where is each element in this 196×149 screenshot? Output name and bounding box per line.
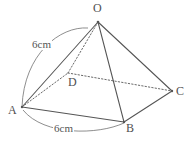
vertex-dot-B xyxy=(123,121,125,123)
pyramid-figure: O A B C D 6cm 6cm xyxy=(0,0,196,149)
vertex-label-O: O xyxy=(93,2,102,14)
edge-O-C xyxy=(98,22,172,91)
edge-O-B xyxy=(98,22,124,122)
hidden-edges-group xyxy=(22,22,172,107)
vertex-dot-C xyxy=(171,90,173,92)
edge-B-C xyxy=(124,91,172,122)
edge-D-C xyxy=(68,73,172,91)
vertex-label-A: A xyxy=(8,104,17,116)
vertex-dot-A xyxy=(21,106,23,108)
edge-A-D xyxy=(22,73,68,107)
dimension-label-oa: 6cm xyxy=(31,39,52,50)
vertex-label-B: B xyxy=(126,122,134,134)
vertex-label-D: D xyxy=(68,76,77,88)
edge-A-B xyxy=(22,107,124,122)
vertex-label-C: C xyxy=(176,85,184,97)
visible-edges-group xyxy=(22,22,172,122)
vertex-dots-group xyxy=(21,21,173,124)
dimension-label-ab: 6cm xyxy=(53,123,74,134)
vertex-dot-O xyxy=(97,21,100,24)
pyramid-svg xyxy=(0,0,196,149)
